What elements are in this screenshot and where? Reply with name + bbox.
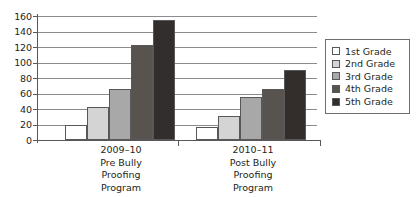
gridline: [38, 32, 317, 33]
y-axis-tick-mark: [33, 109, 38, 110]
category-axis-label-line: 2010–11: [198, 144, 308, 157]
legend-item-label: 3rd Grade: [345, 72, 393, 82]
bar: [65, 125, 87, 141]
bar: [196, 127, 218, 140]
y-axis-tick-label: 0: [0, 136, 32, 146]
bar: [284, 70, 306, 140]
y-axis-tick-label: 140: [0, 27, 32, 37]
legend-item-label: 4th Grade: [345, 84, 393, 94]
bar-chart-figure: 160140120100806040200 1st Grade2nd Grade…: [0, 0, 417, 197]
legend-swatch-icon: [332, 60, 340, 68]
legend-item-label: 2nd Grade: [345, 59, 395, 69]
y-axis-tick-mark: [33, 16, 38, 17]
x-axis-line: [33, 140, 321, 141]
bar: [153, 20, 175, 140]
y-axis-tick-mark: [33, 140, 38, 141]
category-axis-label-line: 2009–10: [66, 144, 176, 157]
y-axis-tick-label: 120: [0, 43, 32, 53]
category-axis-label-line: Post Bully: [198, 157, 308, 170]
y-axis-tick-label: 80: [0, 74, 32, 84]
category-axis-label: 2009–10Pre BullyProofingProgram: [66, 144, 176, 194]
category-axis-label-line: Proofing: [66, 169, 176, 182]
category-axis-label: 2010–11Post BullyProofingProgram: [198, 144, 308, 194]
bar: [87, 107, 109, 140]
category-axis-label-line: Program: [66, 182, 176, 195]
category-axis-label-line: Program: [198, 182, 308, 195]
legend-swatch-icon: [332, 98, 340, 106]
legend-item[interactable]: 2nd Grade: [332, 58, 403, 71]
chart-legend: 1st Grade2nd Grade3rd Grade4th Grade5th …: [325, 39, 410, 114]
legend-item[interactable]: 1st Grade: [332, 45, 403, 58]
gridline: [38, 47, 317, 48]
y-axis-tick-mark: [33, 78, 38, 79]
gridline: [38, 16, 317, 17]
category-axis-tick: [178, 140, 179, 146]
y-axis-tick-labels: 160140120100806040200: [0, 16, 32, 140]
bar: [218, 116, 240, 140]
y-axis-tick-mark: [33, 125, 38, 126]
plot-area: [38, 16, 317, 140]
y-axis-tick-label: 100: [0, 58, 32, 68]
y-axis-tick-mark: [33, 94, 38, 95]
bar: [109, 89, 131, 140]
legend-item-label: 5th Grade: [345, 97, 393, 107]
category-axis-label-line: Pre Bully: [66, 157, 176, 170]
legend-swatch-icon: [332, 85, 340, 93]
bar: [240, 97, 262, 140]
y-axis-tick-label: 60: [0, 89, 32, 99]
legend-item[interactable]: 5th Grade: [332, 95, 403, 108]
category-axis-label-line: Proofing: [198, 169, 308, 182]
y-axis-tick-label: 20: [0, 120, 32, 130]
legend-item-label: 1st Grade: [345, 47, 392, 57]
y-axis-tick-label: 40: [0, 105, 32, 115]
y-axis-tick-mark: [33, 32, 38, 33]
y-axis-tick-label: 160: [0, 12, 32, 22]
y-axis-tick-mark: [33, 63, 38, 64]
y-axis-tick-mark: [33, 47, 38, 48]
gridline: [38, 63, 317, 64]
gridline: [38, 78, 317, 79]
legend-item[interactable]: 4th Grade: [332, 83, 403, 96]
legend-item[interactable]: 3rd Grade: [332, 70, 403, 83]
category-axis-tick: [320, 140, 321, 146]
bar: [262, 89, 284, 140]
legend-swatch-icon: [332, 47, 340, 55]
bar: [131, 45, 153, 140]
legend-swatch-icon: [332, 72, 340, 80]
